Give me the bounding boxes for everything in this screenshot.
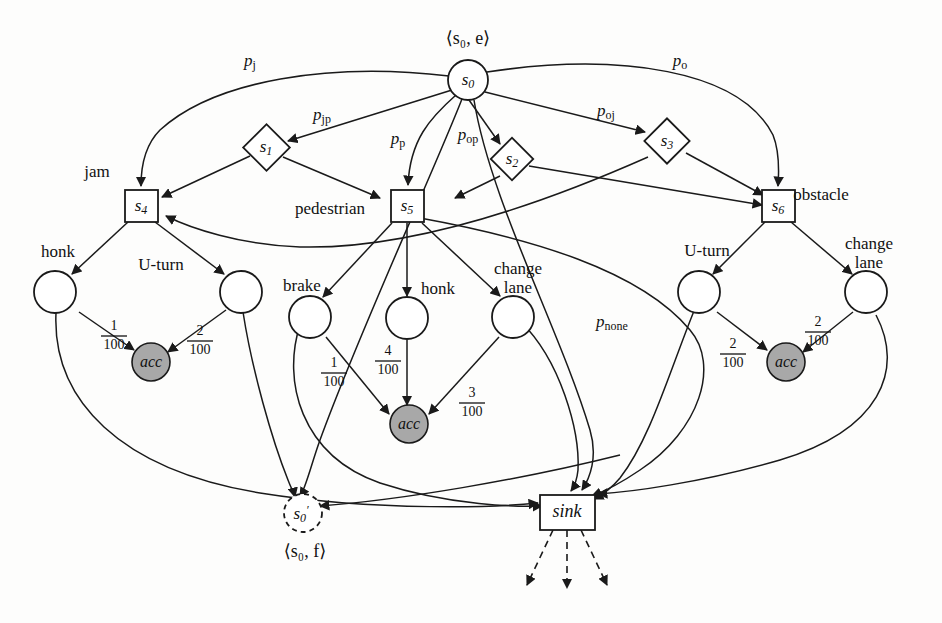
- node-action-ped-honk[interactable]: [386, 297, 428, 339]
- edge-ped-changelane-sink: [521, 322, 578, 491]
- svg-text:100: 100: [462, 404, 483, 419]
- edge-s1-s4: [162, 156, 250, 197]
- action-label-obs-uturn: U-turn: [684, 241, 730, 260]
- prob-label-p-p: pp: [390, 129, 406, 150]
- node-s0[interactable]: s0: [448, 60, 488, 100]
- edge-sink-out-left: [527, 530, 553, 585]
- config-label-final: ⟨s₀, f⟩: [284, 541, 326, 561]
- node-action-obs-uturn[interactable]: [678, 271, 720, 313]
- prob-label-p-op: pop: [457, 125, 479, 146]
- fraction-ped-brake-acc: 1 100: [321, 355, 347, 389]
- action-label-jam-honk: honk: [41, 242, 76, 261]
- diagram-canvas: s0 s1 s2 s3 s4 s5: [0, 0, 942, 623]
- config-label-initial: ⟨s₀, e⟩: [446, 28, 490, 48]
- edge-s0-s6: [487, 64, 778, 186]
- edge-s6-obs-changelane: [791, 222, 852, 274]
- fraction-ped-honk-acc: 4 100: [375, 343, 401, 377]
- edge-obs-uturn-acc: [717, 312, 767, 350]
- svg-text:2: 2: [730, 336, 737, 351]
- svg-text:1: 1: [111, 318, 118, 333]
- fraction-ped-changelane-acc: 3 100: [459, 385, 485, 419]
- node-s5[interactable]: s5: [391, 190, 424, 222]
- prob-label-p-o: po: [672, 51, 688, 72]
- state-label-jam: jam: [83, 162, 110, 181]
- node-s6[interactable]: s6: [762, 190, 795, 222]
- edge-obs-uturn-sink: [594, 311, 694, 499]
- edge-s0-s4: [141, 71, 449, 186]
- edge-s2-s6: [529, 166, 762, 205]
- fraction-obs-uturn-acc: 2 100: [720, 336, 746, 370]
- action-label-obs-changelane-1: change: [845, 234, 893, 253]
- svg-text:2: 2: [197, 323, 204, 338]
- svg-text:2: 2: [815, 314, 822, 329]
- action-label-ped-honk: honk: [421, 279, 456, 298]
- node-acc-right-label: acc: [775, 353, 797, 370]
- action-label-jam-uturn: U-turn: [138, 255, 184, 274]
- edge-s0-s3: [485, 92, 645, 132]
- prob-label-p-jp: pjp: [312, 105, 331, 126]
- fraction-jam-honk-acc: 1 100: [101, 318, 127, 352]
- node-acc-right[interactable]: acc: [767, 343, 805, 381]
- svg-text:100: 100: [324, 374, 345, 389]
- node-acc-left-label: acc: [140, 353, 162, 370]
- svg-text:3: 3: [469, 385, 476, 400]
- edge-s5-sink: [420, 218, 704, 496]
- edge-s1-s5: [283, 157, 380, 198]
- svg-text:100: 100: [104, 337, 125, 352]
- svg-text:100: 100: [190, 342, 211, 357]
- action-label-ped-changelane-2: lane: [504, 278, 532, 297]
- edge-jam-uturn-s0final: [243, 312, 295, 497]
- state-label-pedestrian: pedestrian: [295, 199, 365, 218]
- edge-s4-jam-honk: [72, 222, 128, 274]
- node-action-jam-honk[interactable]: [34, 271, 76, 313]
- state-label-obstacle: obstacle: [793, 185, 849, 204]
- node-s0-final[interactable]: s0′: [284, 494, 322, 532]
- svg-text:1: 1: [331, 355, 338, 370]
- action-label-ped-changelane-1: change: [494, 259, 542, 278]
- fraction-obs-changelane-acc: 2 100: [805, 314, 831, 348]
- edge-s2-s5: [455, 176, 500, 198]
- node-action-obs-changelane[interactable]: [845, 271, 887, 313]
- edge-sink-out-right: [581, 530, 607, 585]
- node-sink[interactable]: sink: [540, 495, 595, 530]
- svg-text:100: 100: [378, 362, 399, 377]
- action-label-obs-changelane-2: lane: [855, 253, 883, 272]
- node-s3[interactable]: s3: [644, 118, 689, 163]
- edge-s0-s0final: [300, 99, 462, 497]
- node-acc-mid[interactable]: acc: [390, 405, 428, 443]
- node-acc-mid-label: acc: [398, 415, 420, 432]
- node-acc-left[interactable]: acc: [132, 343, 170, 381]
- svg-text:100: 100: [723, 355, 744, 370]
- node-s2[interactable]: s2: [491, 138, 533, 180]
- edge-obs-changelane-sink: [598, 315, 887, 494]
- edge-s3-s6: [686, 153, 763, 195]
- prob-label-p-none: pnone: [595, 312, 628, 333]
- prob-label-p-j: pj: [243, 51, 256, 72]
- action-label-ped-brake: brake: [283, 276, 321, 295]
- node-action-ped-brake[interactable]: [289, 296, 331, 338]
- node-action-ped-changelane[interactable]: [492, 296, 534, 338]
- fraction-jam-uturn-acc: 2 100: [187, 323, 213, 357]
- svg-text:4: 4: [385, 343, 392, 358]
- node-action-jam-uturn[interactable]: [220, 271, 262, 313]
- node-s4[interactable]: s4: [125, 190, 158, 222]
- prob-label-p-oj: poj: [596, 101, 615, 122]
- svg-text:100: 100: [808, 333, 829, 348]
- node-sink-label: sink: [553, 501, 583, 521]
- node-s1[interactable]: s1: [243, 124, 290, 171]
